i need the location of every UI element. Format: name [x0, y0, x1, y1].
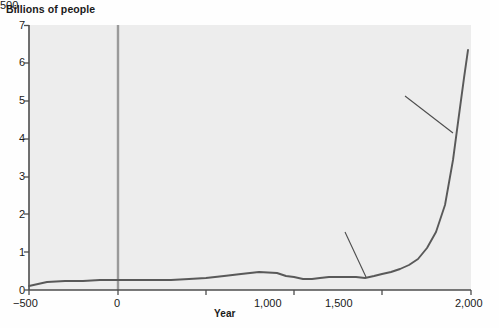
plot-area-background	[29, 25, 471, 290]
population-chart-figure: Billions of people 7 6 5 4 3 2 1 0 −500 …	[0, 0, 499, 328]
chart-vector-layer	[0, 0, 499, 328]
